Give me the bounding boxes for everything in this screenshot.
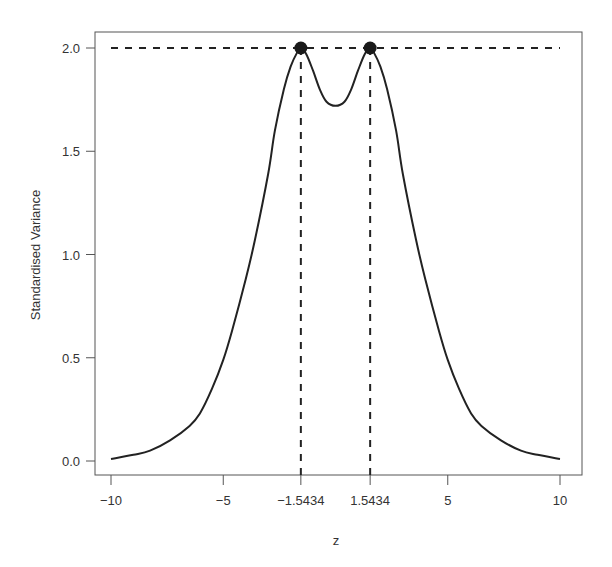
y-tick-label: 1.0 xyxy=(62,248,80,263)
x-tick-label: 5 xyxy=(444,493,451,508)
variance-curve xyxy=(111,48,560,459)
y-axis-title: Standardised Variance xyxy=(28,190,43,321)
x-axis: −10−5−1.54341.5434510 xyxy=(100,475,567,508)
y-tick-label: 0.0 xyxy=(62,454,80,469)
variance-chart: 0.00.51.01.52.0 −10−5−1.54341.5434510 z … xyxy=(0,0,612,567)
x-axis-title: z xyxy=(333,533,340,548)
maximum-point-marker xyxy=(294,42,307,55)
y-tick-label: 0.5 xyxy=(62,351,80,366)
reference-lines xyxy=(111,48,560,475)
y-tick-label: 2.0 xyxy=(62,41,80,56)
plot-box xyxy=(95,32,582,475)
x-tick-label: −10 xyxy=(100,493,122,508)
maximum-point-marker xyxy=(364,42,377,55)
x-tick-label: −5 xyxy=(216,493,231,508)
x-tick-label: 1.5434 xyxy=(350,493,390,508)
y-axis: 0.00.51.01.52.0 xyxy=(62,41,95,469)
y-tick-label: 1.5 xyxy=(62,144,80,159)
x-tick-label: 10 xyxy=(553,493,567,508)
x-tick-label: −1.5434 xyxy=(277,493,324,508)
